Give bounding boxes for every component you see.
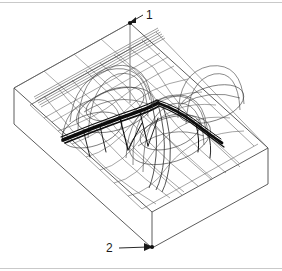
callout-2-leader (119, 243, 154, 251)
secondary-fold (149, 104, 170, 192)
callout-label-2: 2 (106, 242, 113, 254)
dome-right (173, 66, 248, 131)
block-outline (14, 23, 268, 248)
wireframe-mesh-drawing (0, 0, 282, 271)
callout-label-1: 1 (146, 9, 153, 21)
mesh-u-lines (30, 40, 258, 209)
figure-canvas: 1 2 (0, 0, 282, 271)
callout-1-leader (128, 15, 143, 25)
